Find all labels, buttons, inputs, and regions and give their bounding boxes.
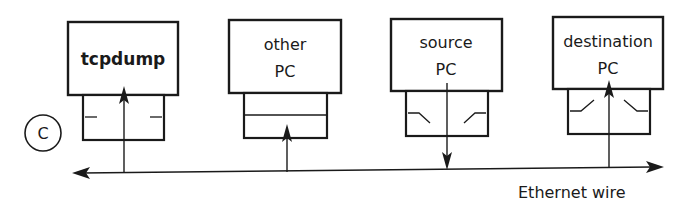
node-source-pc: source PC — [391, 19, 502, 170]
host-box — [553, 17, 663, 89]
panel-marker: C — [25, 115, 61, 151]
node-destination-pc: destination PC — [553, 17, 663, 168]
panel-marker-label: C — [37, 124, 48, 143]
host-label-line2: PC — [436, 60, 457, 79]
host-label-line1: destination — [563, 32, 653, 51]
host-box — [391, 19, 502, 91]
wire-line — [82, 167, 652, 173]
node-other-pc: other PC — [229, 20, 341, 172]
host-label-line1: other — [264, 35, 307, 54]
tcpdump-sniffing-diagram: C Ethernet wire tcpdump other PC source … — [0, 0, 688, 214]
node-tcpdump: tcpdump — [68, 22, 178, 173]
host-label-line2: PC — [275, 62, 296, 81]
host-label: tcpdump — [81, 49, 166, 69]
wire-label: Ethernet wire — [518, 183, 626, 202]
host-label-line2: PC — [598, 59, 619, 78]
host-box — [229, 20, 341, 93]
ethernet-wire: Ethernet wire — [72, 161, 664, 202]
host-label-line1: source — [419, 33, 472, 52]
